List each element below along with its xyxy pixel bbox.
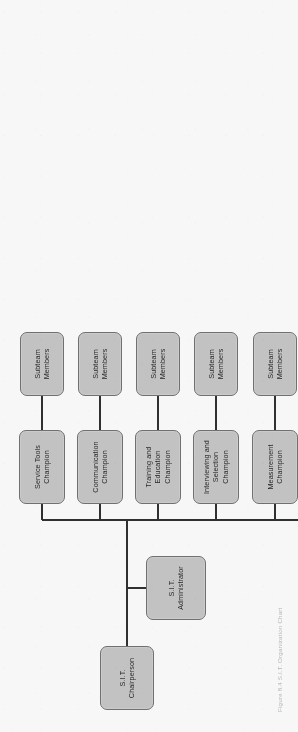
- champion-measurement-subteam-connector: [274, 396, 276, 430]
- subteam-service-tools-box-line1: Subteam: [33, 349, 42, 380]
- subteam-communication-box-line1: Subteam: [91, 349, 100, 380]
- champion-service-tools-spine-connector: [41, 504, 43, 520]
- subteam-service-tools-box-line2: Members: [42, 349, 51, 380]
- figure-caption: Figure 8.4 S.I.T. Organization Chart: [276, 607, 283, 712]
- champion-training-education-box-line3: Champion: [163, 447, 172, 488]
- subteam-measurement-box[interactable]: SubteamMembers: [253, 332, 297, 396]
- champion-interviewing-selection-subteam-connector: [215, 396, 217, 430]
- root-box[interactable]: S.I.T.Chairperson: [100, 646, 154, 710]
- champion-measurement-box-line2: Champion: [275, 444, 284, 489]
- champion-communication-spine-connector: [99, 504, 101, 520]
- champion-interviewing-selection-box-line1: Interviewing and: [202, 440, 211, 494]
- champion-communication-box-line2: Champion: [100, 441, 109, 492]
- champion-service-tools-box-line2: Champion: [42, 445, 51, 489]
- champion-communication-box[interactable]: CommunicationChampion: [77, 430, 123, 504]
- champion-service-tools-box[interactable]: Service ToolsChampion: [19, 430, 65, 504]
- org-chart-canvas: S.I.T.ChairpersonS.I.T.AdministratorServ…: [0, 0, 298, 732]
- champion-measurement-box-line1: Measurement: [266, 444, 275, 489]
- champion-measurement-spine-connector: [274, 504, 276, 520]
- administrator-connector: [127, 587, 146, 589]
- subteam-interviewing-selection-box-line2: Members: [216, 349, 225, 380]
- subteam-communication-box-line2: Members: [100, 349, 109, 380]
- champion-training-education-box-line2: Education: [153, 447, 162, 488]
- champion-measurement-box[interactable]: MeasurementChampion: [252, 430, 298, 504]
- subteam-interviewing-selection-box[interactable]: SubteamMembers: [194, 332, 238, 396]
- subteam-measurement-box-line1: Subteam: [266, 349, 275, 380]
- scanned-figure-page: S.I.T.ChairpersonS.I.T.AdministratorServ…: [0, 0, 298, 732]
- champion-interviewing-selection-box-line2: Selection: [211, 440, 220, 494]
- champion-training-education-box[interactable]: Training andEducationChampion: [135, 430, 181, 504]
- champion-interviewing-selection-box[interactable]: Interviewing andSelectionChampion: [193, 430, 239, 504]
- administrator-box[interactable]: S.I.T.Administrator: [146, 556, 206, 620]
- champion-training-education-box-line1: Training and: [144, 447, 153, 488]
- subteam-training-education-box-line2: Members: [158, 349, 167, 380]
- administrator-box-line1: S.I.T.: [167, 566, 176, 610]
- root-box-line2: Chairperson: [127, 658, 136, 698]
- subteam-interviewing-selection-box-line1: Subteam: [207, 349, 216, 380]
- champion-service-tools-box-line1: Service Tools: [33, 445, 42, 489]
- champion-interviewing-selection-spine-connector: [215, 504, 217, 520]
- subteam-measurement-box-line2: Members: [275, 349, 284, 380]
- champion-interviewing-selection-box-line3: Champion: [221, 440, 230, 494]
- champion-service-tools-subteam-connector: [41, 396, 43, 430]
- subteam-service-tools-box[interactable]: SubteamMembers: [20, 332, 64, 396]
- subteam-training-education-box-line1: Subteam: [149, 349, 158, 380]
- champion-training-education-subteam-connector: [157, 396, 159, 430]
- administrator-box-line2: Administrator: [176, 566, 185, 610]
- champion-communication-box-line1: Communication: [91, 441, 100, 492]
- champion-training-education-spine-connector: [157, 504, 159, 520]
- rotated-chart-container: S.I.T.ChairpersonS.I.T.AdministratorServ…: [0, 0, 298, 732]
- trunk-horizontal: [126, 520, 128, 646]
- root-box-line1: S.I.T.: [118, 658, 127, 698]
- spine-vertical: [42, 519, 298, 521]
- champion-communication-subteam-connector: [99, 396, 101, 430]
- subteam-training-education-box[interactable]: SubteamMembers: [136, 332, 180, 396]
- subteam-communication-box[interactable]: SubteamMembers: [78, 332, 122, 396]
